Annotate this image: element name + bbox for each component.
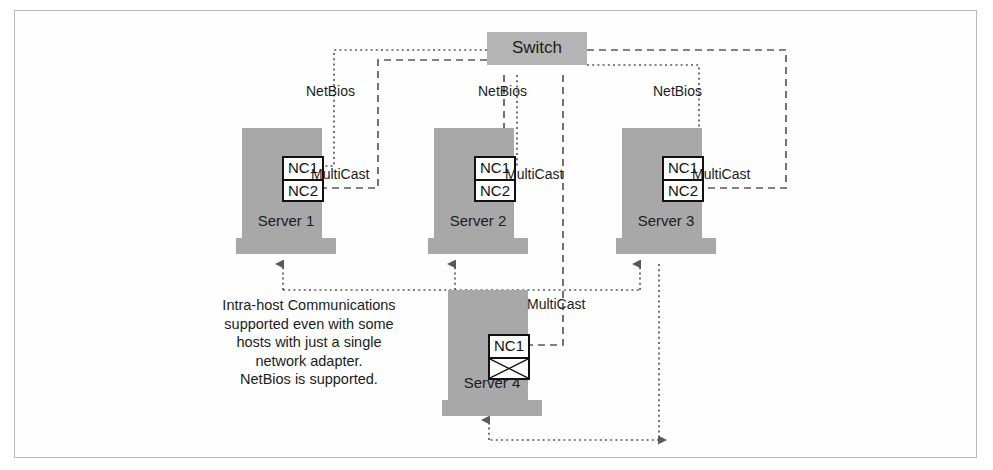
netbios-label-server-3: NetBios <box>653 83 702 99</box>
caption-line-4: network adapter. <box>180 352 438 371</box>
server-1-label: Server 1 <box>236 212 336 229</box>
server-2-label: Server 2 <box>428 212 528 229</box>
caption-line-2: supported even with some <box>180 315 438 334</box>
server-4-pedestal <box>442 400 542 416</box>
server-2-nic-2[interactable]: NC2 <box>476 179 514 200</box>
intrahost-bus <box>283 264 640 290</box>
switch-label: Switch <box>487 33 587 63</box>
server-1-node[interactable]: NC1 NC2 Server 1 <box>236 128 336 264</box>
netbios-label-server-2: NetBios <box>478 83 527 99</box>
multicast-label-server-4: MultiCast <box>527 296 585 312</box>
server-2-pedestal <box>428 238 528 254</box>
diagram-page: Switch NC1 NC2 Server 1 NC1 NC2 Server 2… <box>0 0 993 470</box>
server-1-pedestal <box>236 238 336 254</box>
server-4-label: Server 4 <box>442 374 542 391</box>
server-3-nic-2[interactable]: NC2 <box>664 179 702 200</box>
intrahost-caption: Intra-host Communications supported even… <box>180 296 438 389</box>
server-3-node[interactable]: NC1 NC2 Server 3 <box>616 128 716 264</box>
multicast-label-server-3: MultiCast <box>692 166 750 182</box>
multicast-label-server-1: MultiCast <box>311 166 369 182</box>
server-4-nic-1[interactable]: NC1 <box>490 336 528 357</box>
server-1-nic-2[interactable]: NC2 <box>284 179 322 200</box>
caption-line-3: hosts with just a single <box>180 333 438 352</box>
server-3-label: Server 3 <box>616 212 716 229</box>
caption-line-5: NetBios is supported. <box>180 370 438 389</box>
server-2-node[interactable]: NC1 NC2 Server 2 <box>428 128 528 264</box>
multicast-label-server-2: MultiCast <box>505 166 563 182</box>
switch-node[interactable]: Switch <box>487 32 587 65</box>
caption-line-1: Intra-host Communications <box>180 296 438 315</box>
netbios-label-server-1: NetBios <box>306 83 355 99</box>
server-3-pedestal <box>616 238 716 254</box>
